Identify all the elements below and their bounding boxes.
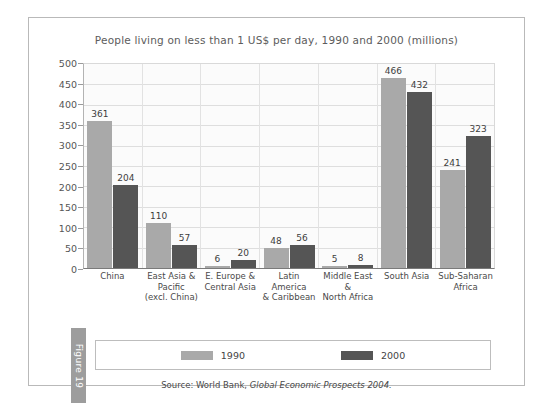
bar-2000: 56 bbox=[290, 245, 315, 268]
bar-value-label: 8 bbox=[358, 253, 364, 263]
y-axis-tick-label: 0 bbox=[71, 264, 77, 275]
plot-wrapper: 36120411057620485658466432241323 5004504… bbox=[83, 63, 495, 269]
legend-item-2000: 2000 bbox=[341, 350, 405, 361]
bar-1990: 48 bbox=[264, 248, 289, 268]
figure-frame: People living on less than 1 US$ per day… bbox=[28, 17, 525, 386]
bar-value-label: 56 bbox=[296, 233, 307, 243]
y-axis-tick-mark bbox=[78, 187, 83, 188]
y-axis-tick-label: 50 bbox=[65, 243, 77, 254]
y-axis-tick-label: 400 bbox=[59, 99, 77, 110]
y-axis-tick-label: 300 bbox=[59, 140, 77, 151]
bar-1990: 241 bbox=[440, 170, 465, 268]
bar-value-label: 432 bbox=[411, 80, 428, 90]
bar-group: 241323 bbox=[436, 64, 494, 268]
y-axis-tick-mark bbox=[78, 228, 83, 229]
bar-group: 466432 bbox=[378, 64, 437, 268]
y-axis-tick-label: 450 bbox=[59, 78, 77, 89]
x-axis-category-label: East Asia &Pacific(excl. China) bbox=[142, 271, 201, 303]
bar-2000: 8 bbox=[348, 265, 373, 268]
source-prefix: Source: World Bank, bbox=[161, 380, 250, 390]
plot-area: 36120411057620485658466432241323 bbox=[83, 63, 495, 269]
y-axis-tick-label: 350 bbox=[59, 119, 77, 130]
bar-2000: 20 bbox=[231, 260, 256, 268]
y-axis-tick-mark bbox=[78, 84, 83, 85]
bar-value-label: 361 bbox=[91, 109, 108, 119]
bar-2000: 57 bbox=[172, 245, 197, 268]
bar-value-label: 6 bbox=[214, 254, 220, 264]
y-axis-tick-mark bbox=[78, 269, 83, 270]
y-axis-tick-mark bbox=[78, 63, 83, 64]
bar-value-label: 323 bbox=[470, 124, 487, 134]
bar-groups: 36120411057620485658466432241323 bbox=[84, 64, 494, 268]
bar-value-label: 466 bbox=[385, 66, 402, 76]
y-axis-tick-label: 100 bbox=[59, 222, 77, 233]
bar-1990: 5 bbox=[322, 266, 347, 268]
bar-1990: 6 bbox=[205, 266, 230, 268]
bar-1990: 466 bbox=[381, 78, 406, 268]
chart-title: People living on less than 1 US$ per day… bbox=[29, 34, 524, 46]
x-axis-category-labels: ChinaEast Asia &Pacific(excl. China)E. E… bbox=[83, 271, 495, 303]
y-axis-tick-label: 200 bbox=[59, 181, 77, 192]
legend-item-1990: 1990 bbox=[181, 350, 245, 361]
y-axis-tick-label: 500 bbox=[59, 58, 77, 69]
bar-value-label: 48 bbox=[270, 236, 281, 246]
chart-legend: 1990 2000 bbox=[95, 340, 491, 370]
legend-label-2000: 2000 bbox=[381, 350, 405, 361]
y-axis-tick-mark bbox=[78, 166, 83, 167]
source-publication: Global Economic Prospects 2004. bbox=[250, 380, 392, 390]
bar-value-label: 57 bbox=[179, 233, 190, 243]
x-axis-category-label: Middle East &North Africa bbox=[318, 271, 377, 303]
figure-number-label: Figure 19 bbox=[74, 343, 84, 388]
x-axis-category-label: E. Europe &Central Asia bbox=[201, 271, 260, 303]
y-axis-tick-label: 150 bbox=[59, 202, 77, 213]
legend-label-1990: 1990 bbox=[221, 350, 245, 361]
x-axis-category-label: South Asia bbox=[377, 271, 436, 303]
y-axis-tick-mark bbox=[78, 125, 83, 126]
bar-2000: 204 bbox=[113, 185, 138, 268]
bar-group: 4856 bbox=[260, 64, 319, 268]
bar-1990: 361 bbox=[87, 121, 112, 268]
y-axis-tick-mark bbox=[78, 145, 83, 146]
bar-value-label: 20 bbox=[238, 248, 249, 258]
bar-value-label: 110 bbox=[150, 211, 167, 221]
bar-value-label: 5 bbox=[332, 254, 338, 264]
bar-group: 58 bbox=[319, 64, 378, 268]
y-axis-tick-mark bbox=[78, 207, 83, 208]
figure-number-tab: Figure 19 bbox=[71, 328, 86, 403]
bar-group: 620 bbox=[201, 64, 260, 268]
bar-value-label: 204 bbox=[117, 173, 134, 183]
y-axis-tick-label: 250 bbox=[59, 161, 77, 172]
bar-value-label: 241 bbox=[444, 158, 461, 168]
bar-group: 361204 bbox=[84, 64, 143, 268]
bar-1990: 110 bbox=[146, 223, 171, 268]
source-note: Source: World Bank, Global Economic Pros… bbox=[29, 380, 524, 390]
legend-swatch-2000 bbox=[341, 351, 373, 360]
bar-2000: 432 bbox=[407, 92, 432, 268]
legend-swatch-1990 bbox=[181, 351, 213, 360]
x-axis-category-label: China bbox=[83, 271, 142, 303]
y-axis-tick-mark bbox=[78, 104, 83, 105]
bar-2000: 323 bbox=[466, 136, 491, 268]
y-axis-tick-mark bbox=[78, 248, 83, 249]
x-axis-category-label: Latin America& Caribbean bbox=[260, 271, 319, 303]
x-axis-category-label: Sub-SaharanAfrica bbox=[436, 271, 495, 303]
bar-group: 11057 bbox=[143, 64, 202, 268]
